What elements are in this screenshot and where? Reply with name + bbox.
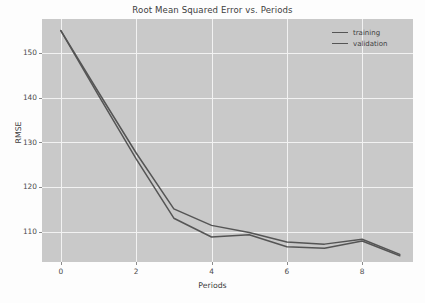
y-tick-label: 150: [3, 48, 37, 57]
line-validation: [61, 31, 400, 255]
chart-title: Root Mean Squared Error vs. Periods: [0, 5, 425, 15]
x-tick-label: 2: [124, 267, 148, 276]
line-training: [61, 31, 400, 256]
legend-label-training: training: [353, 29, 380, 37]
y-tick-label: 120: [3, 182, 37, 191]
x-tick-mark: [212, 262, 213, 265]
chart-figure: Root Mean Squared Error vs. Periods 1101…: [0, 0, 425, 303]
x-tick-mark: [61, 262, 62, 265]
series-lines: [42, 19, 413, 262]
legend-swatch-validation: [332, 43, 348, 44]
x-tick-mark: [287, 262, 288, 265]
x-tick-mark: [136, 262, 137, 265]
legend-item-validation[interactable]: validation: [332, 38, 416, 49]
legend-item-training[interactable]: training: [332, 27, 416, 38]
legend-swatch-training: [332, 32, 348, 33]
x-tick-label: 6: [275, 267, 299, 276]
x-tick-mark: [362, 262, 363, 265]
x-tick-label: 8: [350, 267, 374, 276]
x-axis-label: Periods: [0, 281, 425, 290]
y-tick-label: 110: [3, 227, 37, 236]
plot-area: [42, 19, 413, 262]
x-tick-label: 0: [49, 267, 73, 276]
y-tick-label: 140: [3, 93, 37, 102]
chart-legend: training validation: [330, 25, 418, 51]
y-axis-label: RMSE: [14, 103, 23, 163]
x-tick-label: 4: [199, 267, 223, 276]
legend-label-validation: validation: [353, 40, 387, 48]
